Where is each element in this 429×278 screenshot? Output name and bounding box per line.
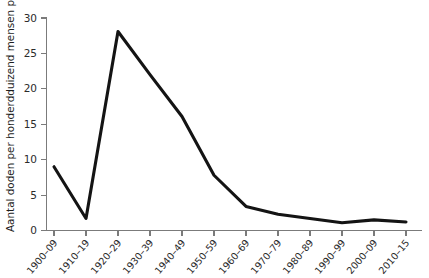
y-tick-label: 20	[24, 82, 37, 94]
x-tick-label: 2000–09	[344, 237, 379, 276]
x-tick-label: 1960–69	[216, 237, 251, 276]
x-tick-label: 1910–19	[56, 237, 91, 276]
x-tick-marks	[54, 231, 406, 237]
y-axis-title-group: Aantal doden per honderdduizend mensen p…	[4, 0, 16, 232]
x-tick-label: 1920–29	[88, 237, 123, 276]
x-tick-label: 1970–79	[248, 237, 283, 276]
x-tick-label: 1900–09	[24, 237, 59, 276]
x-tick-label: 1940–49	[152, 237, 187, 276]
x-tick-label: 1980–89	[280, 237, 315, 276]
y-tick-marks	[41, 18, 47, 231]
y-tick-label: 30	[24, 12, 37, 24]
y-tick-label: 15	[24, 118, 37, 130]
y-tick-label: 10	[24, 153, 37, 165]
chart-canvas: 051015202530 1900–091910–191920–291930–3…	[0, 0, 429, 278]
y-tick-labels: 051015202530	[24, 12, 37, 237]
data-series-line	[54, 31, 406, 222]
y-tick-label: 0	[30, 224, 37, 236]
y-tick-label: 5	[30, 189, 37, 201]
x-tick-labels: 1900–091910–191920–291930–391940–491950–…	[24, 237, 411, 276]
x-tick-label: 2010–15	[376, 237, 411, 276]
x-tick-label: 1950–59	[184, 237, 219, 276]
line-chart: 051015202530 1900–091910–191920–291930–3…	[0, 0, 429, 278]
x-tick-label: 1930–39	[120, 237, 155, 276]
y-tick-label: 25	[24, 47, 37, 59]
x-tick-label: 1990–99	[312, 237, 347, 276]
y-axis-title: Aantal doden per honderdduizend mensen p…	[4, 0, 16, 232]
